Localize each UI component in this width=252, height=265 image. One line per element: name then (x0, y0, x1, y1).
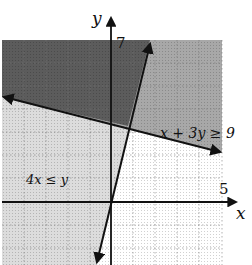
inequality-graph: y 7 x 5 x + 3y ≥ 9 4x ≤ y (0, 0, 252, 265)
y-axis-label: y (91, 8, 102, 28)
inequality-label-4x-le-y: 4x ≤ y (25, 172, 69, 187)
inequality-label-x-plus-3y: x + 3y ≥ 9 (160, 125, 235, 141)
y-max-tick-label: 7 (116, 34, 126, 52)
x-axis-label: x (236, 203, 246, 223)
x-max-tick-label: 5 (219, 180, 229, 198)
halftone-texture (2, 40, 222, 265)
